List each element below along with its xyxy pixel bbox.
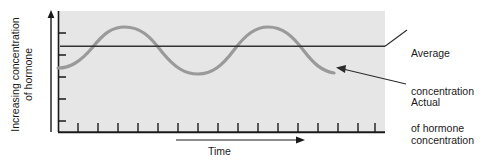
y-axis-label: Increasing concentration of hormone <box>9 13 34 137</box>
actual-annotation-line-2: concentration <box>411 134 474 147</box>
actual-concentration-annotation: Actual concentration of hormone <box>411 71 474 167</box>
y-axis-arrow <box>48 10 55 132</box>
hormone-concentration-figure: Increasing concentration of hormone Time… <box>0 0 496 167</box>
plot-background <box>58 11 385 132</box>
x-axis-direction-arrow <box>176 136 305 143</box>
actual-annotation-line-1: Actual <box>411 96 474 109</box>
x-axis-label: Time <box>208 145 231 157</box>
average-leader-line <box>385 30 407 46</box>
y-axis-label-line-1: Increasing concentration <box>9 13 22 137</box>
average-annotation-line-1: Average <box>411 47 474 60</box>
y-axis-label-line-2: of hormone <box>21 13 34 137</box>
